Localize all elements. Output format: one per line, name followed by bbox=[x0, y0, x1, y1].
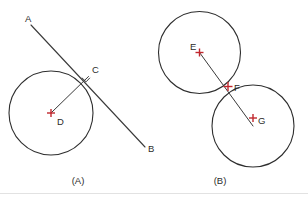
point-label-c: C bbox=[92, 64, 99, 75]
panel-b: E F G (B) bbox=[159, 12, 295, 187]
marker-f bbox=[224, 82, 233, 91]
center-line-eg bbox=[200, 53, 254, 127]
radius-line-dc bbox=[51, 77, 89, 114]
tangent-line-ab bbox=[31, 25, 145, 147]
panel-caption-a: (A) bbox=[72, 175, 85, 186]
figure-root: A B C D (A) E F G (B) bbox=[0, 0, 308, 200]
point-label-e: E bbox=[190, 41, 196, 52]
point-label-f: F bbox=[234, 82, 240, 93]
point-label-g: G bbox=[258, 115, 265, 126]
panel-caption-b: (B) bbox=[214, 175, 227, 186]
point-label-d: D bbox=[57, 116, 64, 127]
panel-a: A B C D (A) bbox=[9, 13, 154, 186]
marker-e bbox=[196, 49, 204, 57]
geometry-diagram: A B C D (A) E F G (B) bbox=[0, 0, 308, 200]
point-label-a: A bbox=[25, 13, 32, 24]
point-label-b: B bbox=[148, 143, 154, 154]
marker-g bbox=[249, 114, 257, 122]
